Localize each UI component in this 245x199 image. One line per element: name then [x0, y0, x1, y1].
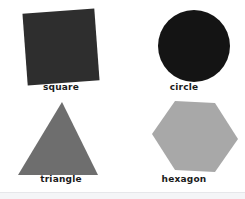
shape-cell-circle: circle — [123, 2, 245, 100]
square-icon — [22, 8, 99, 85]
shape-cell-square: square — [0, 2, 122, 100]
triangle-icon — [18, 102, 98, 177]
circle-icon — [158, 10, 230, 82]
shape-cell-triangle: triangle — [0, 100, 122, 192]
footer-band — [0, 193, 245, 199]
shapes-canvas: square circle triangle hexagon — [0, 0, 245, 199]
shape-cell-hexagon: hexagon — [123, 100, 245, 192]
shape-label-square: square — [0, 82, 122, 93]
hexagon-icon — [152, 101, 238, 174]
shape-label-circle: circle — [123, 82, 245, 93]
shape-label-hexagon: hexagon — [123, 174, 245, 185]
shape-label-triangle: triangle — [0, 174, 122, 185]
